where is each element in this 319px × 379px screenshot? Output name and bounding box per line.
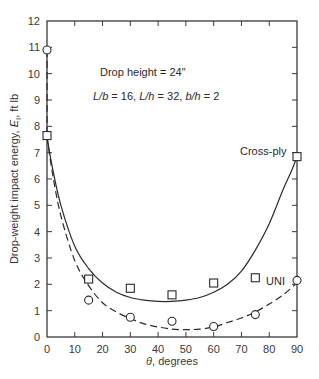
x-tick-label: 50 bbox=[180, 343, 192, 355]
x-tick-label: 20 bbox=[96, 343, 108, 355]
cross-ply-marker-square bbox=[168, 291, 176, 299]
y-tick-label: 2 bbox=[34, 278, 40, 290]
x-tick-label: 40 bbox=[152, 343, 164, 355]
uni-marker-circle bbox=[251, 311, 259, 319]
x-tick-label: 0 bbox=[44, 343, 50, 355]
cross-ply-marker-square bbox=[43, 132, 51, 140]
uni-marker-circle bbox=[168, 317, 176, 325]
ratio-annotation: L/b = 16, L/h = 32, b/h = 2 bbox=[93, 90, 219, 102]
uni-marker-circle bbox=[43, 46, 51, 54]
y-tick-label: 7 bbox=[34, 147, 40, 159]
y-tick-label: 8 bbox=[34, 120, 40, 132]
y-tick-label: 3 bbox=[34, 252, 40, 264]
cross-ply-label: Cross-ply bbox=[240, 145, 287, 157]
y-tick-label: 1 bbox=[34, 305, 40, 317]
cross-ply-marker-square bbox=[210, 279, 218, 287]
y-tick-label: 10 bbox=[28, 68, 40, 80]
uni-marker-circle bbox=[293, 276, 301, 284]
y-tick-label: 6 bbox=[34, 173, 40, 185]
x-tick-label: 60 bbox=[208, 343, 220, 355]
drop-height-annotation: Drop height = 24" bbox=[100, 66, 186, 78]
y-tick-label: 4 bbox=[34, 226, 40, 238]
uni-marker-circle bbox=[210, 322, 218, 330]
cross-ply-marker-square bbox=[293, 153, 301, 161]
y-tick-label: 0 bbox=[34, 331, 40, 343]
y-tick-label: 5 bbox=[34, 199, 40, 211]
cross-ply-marker-square bbox=[251, 274, 259, 282]
y-tick-label: 12 bbox=[28, 15, 40, 27]
cross-ply-marker-square bbox=[85, 275, 93, 283]
y-tick-label: 11 bbox=[29, 41, 40, 53]
uni-marker-circle bbox=[126, 313, 134, 321]
y-axis-ticks: 0123456789101112 bbox=[28, 15, 297, 343]
impact-energy-chart: 0102030405060708090 0123456789101112 Dro… bbox=[0, 0, 319, 379]
x-tick-label: 80 bbox=[263, 343, 275, 355]
y-tick-label: 9 bbox=[34, 94, 40, 106]
x-tick-label: 90 bbox=[291, 343, 303, 355]
y-axis-label: Drop-weight impact energy, EI, ft lb bbox=[8, 94, 23, 264]
x-tick-label: 70 bbox=[235, 343, 247, 355]
x-tick-label: 30 bbox=[124, 343, 136, 355]
cross-ply-marker-square bbox=[126, 284, 134, 292]
x-tick-label: 10 bbox=[69, 343, 81, 355]
data-markers bbox=[43, 46, 301, 331]
x-axis-label: θ, degrees bbox=[146, 355, 198, 367]
uni-marker-circle bbox=[85, 296, 93, 304]
uni-label: UNI bbox=[266, 275, 285, 287]
